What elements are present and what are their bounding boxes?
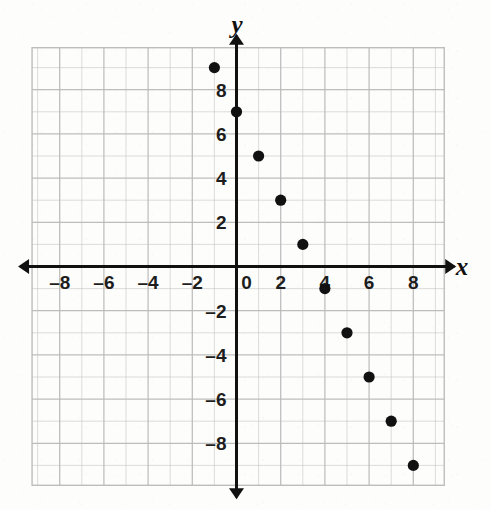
y-tick-label: 4 (216, 168, 227, 189)
y-axis-label: y (228, 11, 243, 38)
x-tick-label: –2 (182, 272, 203, 293)
y-tick-label: –8 (205, 433, 226, 454)
coordinate-plane-figure: –8–6–4–2024688642–2–4–6–8 y x (0, 0, 491, 510)
x-tick-label: 0 (241, 272, 252, 293)
scatter-plot-svg: –8–6–4–2024688642–2–4–6–8 y x (0, 0, 491, 510)
x-axis-label: x (455, 253, 469, 280)
y-tick-label: –4 (205, 345, 227, 366)
y-tick-label: –6 (205, 389, 226, 410)
x-tick-label: –8 (49, 272, 70, 293)
y-tick-label: 2 (216, 212, 227, 233)
data-point (209, 62, 220, 73)
data-point (275, 195, 286, 206)
y-tick-label: 8 (216, 80, 227, 101)
x-tick-label: –6 (93, 272, 114, 293)
data-point (364, 371, 375, 382)
data-point (408, 460, 419, 471)
y-tick-label: –2 (205, 301, 226, 322)
x-tick-label: 2 (275, 272, 286, 293)
axes (18, 34, 456, 500)
x-tick-label: 6 (364, 272, 375, 293)
data-point (341, 327, 352, 338)
data-point (253, 150, 264, 161)
y-tick-label: 6 (216, 124, 227, 145)
data-point (297, 239, 308, 250)
x-tick-label: 8 (408, 272, 419, 293)
data-point (319, 283, 330, 294)
data-point (386, 416, 397, 427)
x-tick-label: –4 (138, 272, 160, 293)
data-point (231, 106, 242, 117)
